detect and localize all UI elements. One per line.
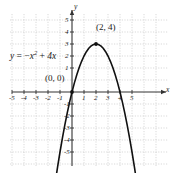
y-tick-label--4: -4 xyxy=(64,137,70,144)
y-tick-label-3: 3 xyxy=(65,41,69,48)
x-tick-label-2: 2 xyxy=(94,95,98,102)
y-axis-name: y xyxy=(74,3,77,11)
x-tick-label--4: -4 xyxy=(21,95,27,102)
origin-point xyxy=(70,90,74,94)
origin-label: (0, 0) xyxy=(45,74,65,83)
y-tick-label--3: -3 xyxy=(64,125,70,132)
vertex-point xyxy=(94,42,98,46)
x-tick-label--5: -5 xyxy=(9,95,15,102)
x-tick-label-1: 1 xyxy=(82,95,86,102)
equation-term2: 4x xyxy=(47,51,56,61)
x-tick-label-5: 5 xyxy=(130,95,134,102)
y-tick-label--1: -1 xyxy=(64,101,70,108)
y-tick-label--5: -5 xyxy=(64,149,70,156)
x-axis-name: x xyxy=(166,86,169,94)
y-tick-label--2: -2 xyxy=(64,113,70,120)
x-tick-label-3: 3 xyxy=(106,95,110,102)
y-tick-label-5: 5 xyxy=(65,17,69,24)
y-tick-label-4: 4 xyxy=(65,29,69,36)
equation-label: y = −x2 + 4x xyxy=(10,50,56,62)
y-tick-label-2: 2 xyxy=(65,53,69,60)
plot-canvas xyxy=(0,0,175,173)
x-tick-label-4: 4 xyxy=(118,95,122,102)
x-tick-label--2: -2 xyxy=(45,95,51,102)
x-tick-label--1: -1 xyxy=(57,95,63,102)
x-tick-label--3: -3 xyxy=(33,95,39,102)
vertex-label: (2, 4) xyxy=(96,23,116,32)
parabola-figure: -5 -4 -3 -2 -1 1 2 3 4 5 5 4 3 2 1 -1 -2… xyxy=(0,0,175,173)
y-tick-label-1: 1 xyxy=(65,65,69,72)
